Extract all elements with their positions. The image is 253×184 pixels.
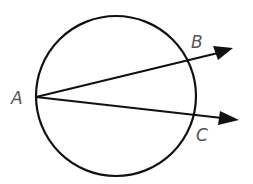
inscribed-angle-diagram: A B C bbox=[0, 0, 253, 184]
arrowhead-c bbox=[218, 111, 239, 125]
label-a: A bbox=[10, 88, 23, 108]
circle bbox=[36, 16, 196, 176]
label-b: B bbox=[191, 32, 203, 52]
ray-ab bbox=[36, 53, 218, 97]
label-c: C bbox=[196, 125, 208, 145]
arrowhead-b bbox=[213, 46, 233, 60]
